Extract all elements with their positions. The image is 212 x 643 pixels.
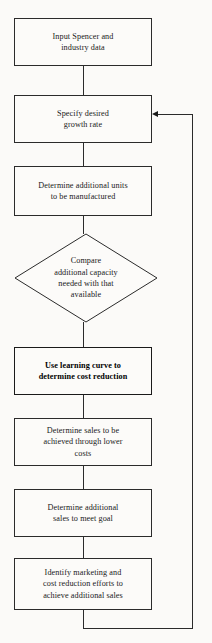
flow-node-label: Determine additional sales to meet goal <box>43 502 124 525</box>
flow-connector-input-to-growth <box>83 66 84 95</box>
feedback-loop-bottom-segment <box>83 628 193 629</box>
flow-node-determine-sales-lower-costs[interactable]: Determine sales to be achieved through l… <box>14 418 152 466</box>
flow-node-identify-efforts[interactable]: Identify marketing and cost reduction ef… <box>14 558 152 610</box>
flow-node-label: Determine additional units to be manufac… <box>33 180 132 203</box>
flow-node-label: Determine sales to be achieved through l… <box>38 425 127 460</box>
flow-node-label: Specify desired growth rate <box>52 108 114 131</box>
flow-node-specify-growth-rate[interactable]: Specify desired growth rate <box>14 95 152 143</box>
flow-node-label: Use learning curve to determine cost red… <box>34 360 133 383</box>
flow-node-learning-curve[interactable]: Use learning curve to determine cost red… <box>14 347 152 395</box>
flow-connector-learning-to-sales <box>83 395 84 418</box>
flow-connector-growth-to-units <box>83 143 84 166</box>
flow-node-input-data[interactable]: Input Spencer and industry data <box>14 18 152 66</box>
flow-node-determine-additional-sales[interactable]: Determine additional sales to meet goal <box>14 489 152 537</box>
flow-node-determine-units[interactable]: Determine additional units to be manufac… <box>14 166 152 216</box>
flow-connector-additional-to-identify <box>83 537 84 558</box>
flow-node-label: Identify marketing and cost reduction ef… <box>38 567 128 602</box>
feedback-loop-arrowhead-icon <box>152 111 158 117</box>
flow-connector-units-to-compare <box>83 216 84 234</box>
flow-connector-compare-to-learning <box>83 322 84 347</box>
flow-connector-sales-to-additional <box>83 466 84 489</box>
feedback-loop-down-segment <box>83 610 84 629</box>
feedback-loop-right-rail <box>192 114 193 628</box>
flow-node-label: Compare additional capacity needed with … <box>54 255 118 300</box>
flow-node-label: Input Spencer and industry data <box>48 31 119 54</box>
flowchart-canvas: Input Spencer and industry data Specify … <box>0 0 212 643</box>
feedback-loop-top-segment <box>157 114 193 115</box>
flow-node-compare-capacity[interactable]: Compare additional capacity needed with … <box>14 233 158 323</box>
